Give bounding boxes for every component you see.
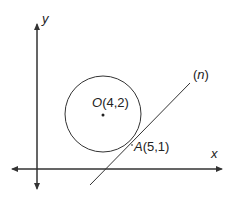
center-label-coords: (4,2): [102, 95, 129, 110]
tangent-point-letter: A: [133, 139, 143, 154]
y-axis-label: y: [41, 11, 50, 26]
line-label-name: n: [197, 67, 204, 82]
center-point: [102, 114, 105, 117]
diagram-canvas: y x O(4,2) A(5,1) (n): [0, 0, 231, 199]
line-label: (n): [193, 67, 209, 82]
tangent-point-label: A(5,1): [133, 139, 169, 154]
line-label-close: ): [205, 67, 209, 82]
x-axis-label: x: [210, 146, 218, 161]
center-label: O(4,2): [92, 95, 129, 110]
center-label-letter: O: [92, 95, 102, 110]
tangent-point-coords: (5,1): [143, 139, 170, 154]
